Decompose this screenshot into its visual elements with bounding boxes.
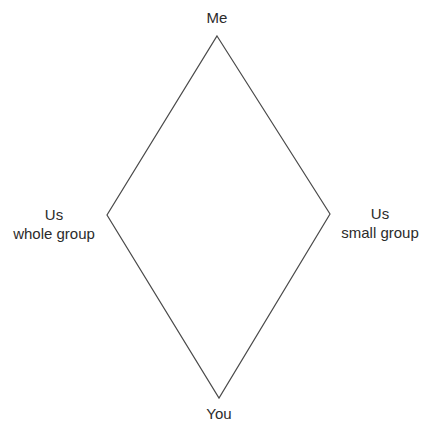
label-us-small-group-line2: small group [328,223,432,242]
label-you-text: You [196,404,242,423]
label-us-small-group-line1: Us [328,204,432,223]
label-me: Me [197,8,237,27]
label-me-text: Me [197,8,237,27]
label-us-whole-group-line1: Us [6,205,102,224]
label-us-whole-group-line2: whole group [6,224,102,243]
label-us-whole-group: Us whole group [6,205,102,243]
label-you: You [196,404,242,423]
diamond-shape [107,36,330,398]
label-us-small-group: Us small group [328,204,432,242]
